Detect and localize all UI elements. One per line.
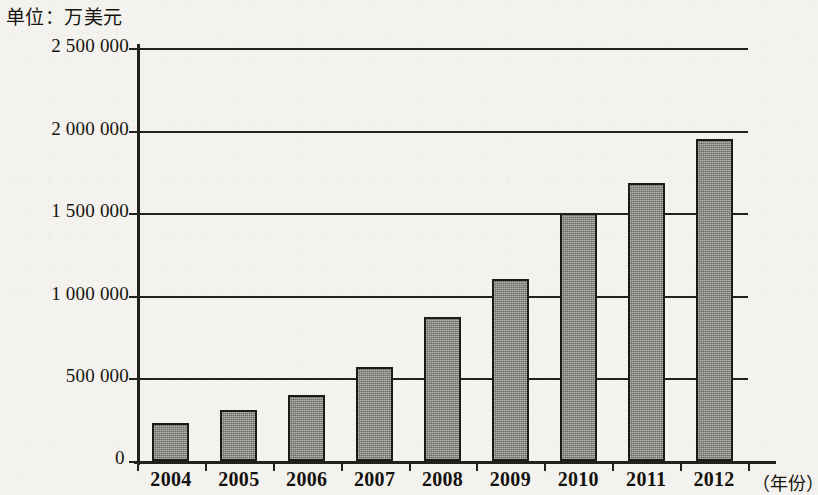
y-axis-label-1000000: 1 000 000 (51, 283, 129, 305)
x-axis-label-2010: 2010 (558, 468, 599, 491)
x-tick-7 (612, 462, 614, 471)
x-axis-label-2006: 2006 (286, 468, 327, 491)
y-axis-label-1500000: 1 500 000 (51, 200, 129, 222)
bar-2006 (288, 395, 325, 461)
y-axis-label-2000000: 2 000 000 (51, 118, 129, 140)
x-tick-8 (680, 462, 682, 471)
x-tick-3 (341, 462, 343, 471)
x-axis-title: （年份） (752, 469, 818, 495)
bar-2011 (628, 183, 665, 461)
y-tick-500000 (129, 378, 138, 380)
y-axis-label-0: 0 (115, 447, 125, 469)
x-tick-6 (544, 462, 546, 471)
y-tick-1500000 (129, 213, 138, 215)
y-tick-2000000 (129, 131, 138, 133)
y-axis-label-2500000: 2 500 000 (51, 35, 129, 57)
x-axis-label-2007: 2007 (354, 468, 395, 491)
x-axis-label-2008: 2008 (422, 468, 463, 491)
gridline-2500000 (137, 48, 748, 50)
y-tick-1000000 (129, 296, 138, 298)
bar-2004 (152, 423, 189, 461)
bar-2005 (220, 410, 257, 461)
chart-unit-caption: 单位：万美元 (6, 2, 122, 29)
x-tick-1 (205, 462, 207, 471)
gridline-2000000 (137, 131, 748, 133)
x-axis-label-2004: 2004 (150, 468, 191, 491)
bar-2010 (560, 213, 597, 461)
x-axis-label-2012: 2012 (693, 468, 734, 491)
x-tick-4 (409, 462, 411, 471)
x-tick-end (748, 462, 750, 471)
plot-area (137, 48, 748, 461)
x-axis-label-2005: 2005 (218, 468, 259, 491)
bar-2008 (424, 317, 461, 461)
bar-2007 (356, 367, 393, 461)
y-axis-label-500000: 500 000 (66, 365, 129, 387)
bar-2012 (696, 139, 733, 461)
x-tick-2 (273, 462, 275, 471)
bar-2009 (492, 279, 529, 461)
x-tick-0 (137, 462, 139, 471)
x-tick-5 (476, 462, 478, 471)
y-tick-2500000 (129, 48, 138, 50)
x-axis-label-2009: 2009 (490, 468, 531, 491)
x-axis-label-2011: 2011 (626, 468, 666, 491)
